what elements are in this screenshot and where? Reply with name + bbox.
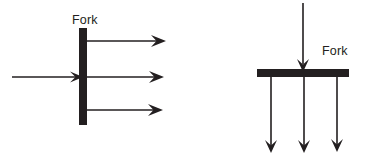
panel-horizontal-fork: Fork xyxy=(257,3,349,153)
fork-label-horizontal: Fork xyxy=(322,44,348,58)
outgoing-arrow-left xyxy=(265,77,277,153)
outgoing-arrow-top xyxy=(87,35,166,47)
incoming-arrow-top xyxy=(297,3,309,72)
outgoing-arrow-center xyxy=(298,77,310,153)
outgoing-arrow-bottom xyxy=(87,104,163,116)
fork-bar-vertical xyxy=(79,28,87,125)
fork-bar-horizontal xyxy=(257,69,349,77)
incoming-arrow-left xyxy=(12,72,83,83)
panel-vertical-fork: Fork xyxy=(12,13,166,125)
outgoing-arrow-right xyxy=(331,77,343,152)
fork-label-vertical: Fork xyxy=(72,13,98,27)
fork-diagram-svg: Fork xyxy=(0,0,373,160)
outgoing-arrow-middle xyxy=(87,71,164,83)
diagram-canvas: Fork xyxy=(0,0,373,160)
